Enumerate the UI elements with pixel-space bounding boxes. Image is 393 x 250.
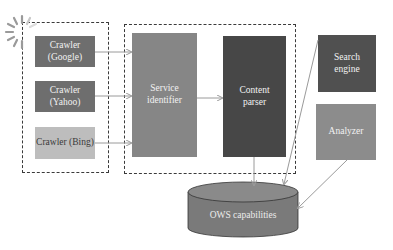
edge-analyzer-to-ows [298,160,347,208]
ows-capabilities-label: OWS capabilities [188,210,298,220]
edge-search-to-ows [284,40,318,184]
